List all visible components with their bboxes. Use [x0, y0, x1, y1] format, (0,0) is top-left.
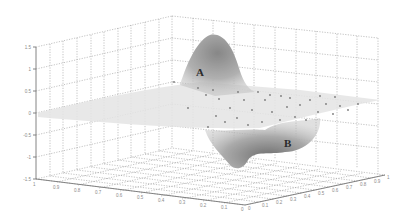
z-tick-label: -1.5	[23, 177, 31, 182]
x-tick-label: 0.1	[221, 205, 228, 210]
y-tick-label: 0.6	[332, 188, 339, 193]
y-tick-label: 0.7	[346, 185, 353, 190]
x-tick-label: 0.7	[95, 190, 102, 195]
x-tick-label: 0.4	[158, 198, 165, 203]
z-tick-label: 0	[28, 111, 31, 116]
y-tick-label: 0	[248, 206, 251, 211]
y-tick-label: 0.1	[262, 203, 269, 208]
y-tick-label: 0.9	[374, 179, 381, 184]
x-tick-label: 0.8	[74, 188, 81, 193]
x-tick-label: 0.9	[53, 185, 60, 190]
peak-a-mesh	[180, 35, 255, 96]
x-tick-label: 0.2	[200, 203, 207, 208]
y-axis-ticks: 0 0.1 0.2 0.3 0.4 0.5 0.6 0.7 0.8 0.9 1	[248, 175, 390, 211]
z-tick-label: -0.5	[23, 133, 31, 138]
floor-grid	[36, 148, 385, 205]
x-axis-line	[36, 179, 245, 205]
annotation-peak-a: A	[196, 66, 204, 78]
x-tick-label: 1	[33, 182, 36, 187]
y-tick-label: 0.2	[276, 200, 283, 205]
z-tick-label: 1	[28, 67, 31, 72]
z-tick-label: 1.5	[25, 45, 32, 50]
x-tick-label: 0.3	[179, 200, 186, 205]
x-tick-label: 0.6	[116, 193, 123, 198]
y-tick-label: 0.3	[290, 197, 297, 202]
annotation-trough-b: B	[284, 137, 292, 149]
y-axis-line	[245, 175, 385, 205]
surface-plot-3d: 1.5 1 0.5 0 -0.5 -1 -1.5 1 0.9 0.8 0.7 0…	[0, 0, 407, 213]
y-tick-label: 1	[387, 175, 390, 180]
x-tick-label: 0	[241, 207, 244, 212]
y-tick-label: 0.8	[360, 182, 367, 187]
y-tick-label: 0.4	[304, 194, 311, 199]
z-axis-ticks: 1.5 1 0.5 0 -0.5 -1 -1.5	[23, 45, 36, 182]
y-tick-label: 0.5	[318, 191, 325, 196]
z-tick-label: 0.5	[25, 89, 32, 94]
x-tick-label: 0.5	[137, 195, 144, 200]
z-tick-label: -1	[27, 155, 31, 160]
